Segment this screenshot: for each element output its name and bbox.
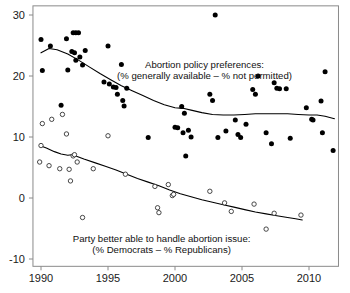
data-point-filled	[210, 98, 215, 103]
data-point-filled	[122, 103, 127, 108]
data-point-filled	[277, 86, 282, 91]
data-point-filled	[101, 80, 106, 85]
data-point-filled	[83, 48, 88, 53]
y-tick-label: 0	[19, 192, 25, 204]
data-point-filled	[244, 122, 249, 127]
data-point-open	[155, 206, 159, 210]
data-point-filled	[76, 30, 81, 35]
data-point-filled	[115, 92, 120, 97]
data-point-filled	[253, 92, 258, 97]
data-point-open	[80, 215, 84, 219]
data-point-filled	[311, 117, 316, 122]
data-point-open	[67, 167, 71, 171]
data-point-filled	[119, 62, 124, 67]
data-point-open	[272, 211, 276, 215]
data-point-filled	[288, 136, 293, 141]
data-point-filled	[182, 111, 187, 116]
data-point-filled	[304, 105, 309, 110]
data-point-filled	[181, 130, 186, 135]
data-point-filled	[77, 55, 82, 60]
data-point-open	[171, 192, 175, 196]
chart-root: 19901995200020052010 -100102030 Abortion…	[0, 0, 350, 293]
data-point-filled	[48, 44, 53, 49]
data-point-filled	[39, 37, 44, 42]
data-point-filled	[124, 86, 129, 91]
data-point-filled	[146, 135, 151, 140]
data-point-filled	[207, 92, 212, 97]
data-point-filled	[238, 135, 243, 140]
data-point-filled	[65, 67, 70, 72]
y-tick-label: -10	[9, 253, 25, 265]
y-tick-label: 30	[13, 9, 25, 21]
data-point-filled	[175, 125, 180, 130]
party-handle-annotation: Party better able to handle abortion iss…	[73, 233, 251, 255]
y-tick-label: 10	[13, 131, 25, 143]
data-point-open	[106, 134, 110, 138]
x-tick-label: 1990	[29, 272, 53, 284]
y-tick-label: 20	[13, 70, 25, 82]
data-point-open	[68, 179, 72, 183]
data-point-open	[299, 213, 303, 217]
data-point-filled	[319, 99, 324, 104]
data-point-open	[37, 160, 41, 164]
data-point-filled	[64, 36, 69, 41]
data-point-filled	[80, 63, 85, 68]
data-point-open	[264, 227, 268, 231]
annotation-line: (% generally available – % not permitted…	[117, 70, 292, 81]
data-point-open	[64, 132, 68, 136]
data-point-open	[222, 201, 226, 205]
data-point-filled	[107, 81, 112, 86]
data-point-filled	[213, 13, 218, 18]
data-point-open	[50, 117, 54, 121]
data-point-filled	[233, 117, 238, 122]
data-point-filled	[73, 58, 78, 63]
data-point-filled	[186, 128, 191, 133]
data-point-open	[229, 209, 233, 213]
data-point-filled	[269, 141, 274, 146]
data-point-filled	[215, 135, 220, 140]
data-point-open	[166, 182, 170, 186]
data-point-filled	[59, 103, 64, 108]
data-point-filled	[189, 135, 194, 140]
data-point-open	[58, 167, 62, 171]
data-point-open	[75, 160, 79, 164]
annotation-line: (% Democrats – % Republicans)	[92, 244, 231, 255]
data-point-filled	[250, 87, 255, 92]
annotation-line: Abortion policy preferences:	[145, 59, 264, 70]
data-point-open	[91, 167, 95, 171]
x-tick-label: 1995	[96, 272, 120, 284]
data-point-filled	[179, 104, 184, 109]
data-point-open	[40, 121, 44, 125]
data-point-filled	[320, 130, 325, 135]
data-point-open	[72, 152, 76, 156]
x-tick-label: 2000	[163, 272, 187, 284]
data-point-open	[39, 143, 43, 147]
data-point-open	[208, 189, 212, 193]
data-point-open	[252, 202, 256, 206]
data-point-open	[153, 184, 157, 188]
data-point-filled	[40, 68, 45, 73]
data-point-filled	[323, 69, 328, 74]
data-point-filled	[183, 153, 188, 158]
data-point-filled	[223, 128, 228, 133]
x-tick-label: 2005	[230, 272, 254, 284]
data-point-filled	[114, 85, 119, 90]
data-point-open	[123, 172, 127, 176]
data-point-filled	[264, 130, 269, 135]
data-point-filled	[331, 148, 336, 153]
data-point-filled	[120, 98, 125, 103]
data-point-open	[60, 112, 64, 116]
x-tick-label: 2010	[297, 272, 321, 284]
data-point-open	[47, 163, 51, 167]
data-point-filled	[284, 86, 289, 91]
data-point-open	[157, 210, 161, 214]
annotation-line: Party better able to handle abortion iss…	[73, 233, 251, 244]
data-point-filled	[106, 44, 111, 49]
scatter-plot: 19901995200020052010 -100102030 Abortion…	[0, 0, 350, 293]
data-point-filled	[72, 50, 77, 55]
